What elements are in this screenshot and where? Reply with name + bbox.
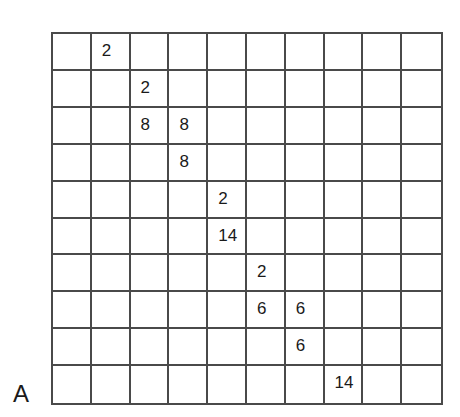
grid-cell xyxy=(325,108,364,145)
grid-cell xyxy=(92,182,131,219)
grid-cell: 8 xyxy=(169,145,208,182)
grid-cell xyxy=(53,292,92,329)
cell-value: 8 xyxy=(179,152,188,172)
grid-cell xyxy=(53,71,92,108)
grid-cell xyxy=(325,219,364,256)
grid-cell xyxy=(325,71,364,108)
grid-cell xyxy=(53,34,92,71)
grid-cell xyxy=(208,292,247,329)
grid-cell xyxy=(169,255,208,292)
grid-cell xyxy=(363,329,402,366)
cell-value: 2 xyxy=(218,189,227,209)
grid-cell xyxy=(402,182,441,219)
grid-cell xyxy=(208,255,247,292)
grid-cell xyxy=(363,34,402,71)
grid-cell xyxy=(208,34,247,71)
grid-cell: 14 xyxy=(325,366,364,403)
grid-cell xyxy=(286,145,325,182)
cell-value: 2 xyxy=(141,78,150,98)
grid-cell xyxy=(247,108,286,145)
grid-cell xyxy=(92,219,131,256)
grid-cell xyxy=(169,292,208,329)
grid-cell xyxy=(402,108,441,145)
grid-cell xyxy=(363,219,402,256)
grid-cell xyxy=(363,292,402,329)
grid-cell xyxy=(131,145,170,182)
grid-cell xyxy=(247,219,286,256)
cell-value: 6 xyxy=(257,299,266,319)
grid-cell: 6 xyxy=(286,329,325,366)
grid-cell xyxy=(363,108,402,145)
number-grid: 22888214266614 xyxy=(51,32,443,405)
grid-cell xyxy=(131,219,170,256)
grid-cell xyxy=(53,108,92,145)
grid-cell xyxy=(208,366,247,403)
grid-cell xyxy=(402,366,441,403)
grid-cell xyxy=(53,145,92,182)
grid-cell xyxy=(286,219,325,256)
grid-cell xyxy=(92,255,131,292)
grid-cell: 8 xyxy=(131,108,170,145)
grid-cell xyxy=(92,329,131,366)
grid-cell xyxy=(402,292,441,329)
grid-cell xyxy=(169,219,208,256)
grid-cell xyxy=(208,329,247,366)
grid-cell: 14 xyxy=(208,219,247,256)
grid-cell xyxy=(402,145,441,182)
grid-cell xyxy=(402,219,441,256)
grid-cell xyxy=(286,182,325,219)
grid-cell xyxy=(169,329,208,366)
grid-cell xyxy=(169,182,208,219)
grid-cell: 2 xyxy=(131,71,170,108)
grid-cell xyxy=(363,71,402,108)
grid-cell xyxy=(53,255,92,292)
grid-cell xyxy=(92,71,131,108)
grid-cell: 2 xyxy=(92,34,131,71)
grid-cell xyxy=(247,34,286,71)
grid-cell: 2 xyxy=(208,182,247,219)
grid-cell xyxy=(286,71,325,108)
grid-cell xyxy=(325,182,364,219)
grid-cell: 6 xyxy=(247,292,286,329)
grid-cell xyxy=(325,292,364,329)
grid-cell xyxy=(247,71,286,108)
grid-cell xyxy=(131,34,170,71)
grid-cell xyxy=(131,329,170,366)
grid-cell xyxy=(247,145,286,182)
grid-cell: 6 xyxy=(286,292,325,329)
grid-cell xyxy=(325,255,364,292)
grid-cell xyxy=(325,34,364,71)
cell-value: 8 xyxy=(141,115,150,135)
grid-cell xyxy=(247,182,286,219)
grid-cell xyxy=(169,71,208,108)
grid-cell xyxy=(286,108,325,145)
panel-label: A xyxy=(13,382,29,406)
cell-value: 2 xyxy=(102,41,111,61)
grid-cell xyxy=(169,366,208,403)
grid-cell xyxy=(286,255,325,292)
grid-cell xyxy=(286,34,325,71)
cell-value: 6 xyxy=(296,299,305,319)
grid-cell xyxy=(325,329,364,366)
grid-cell xyxy=(363,182,402,219)
grid-cell xyxy=(247,366,286,403)
grid-cell xyxy=(363,366,402,403)
grid-cell xyxy=(402,255,441,292)
grid-cell: 8 xyxy=(169,108,208,145)
cell-value: 6 xyxy=(296,336,305,356)
cell-value: 14 xyxy=(218,226,237,246)
grid-cell xyxy=(53,182,92,219)
grid-cell xyxy=(247,329,286,366)
grid-cell xyxy=(402,329,441,366)
cell-value: 8 xyxy=(179,115,188,135)
grid-cell xyxy=(131,292,170,329)
grid-cell xyxy=(402,34,441,71)
cell-value: 2 xyxy=(257,262,266,282)
grid-cell xyxy=(363,255,402,292)
grid-cell xyxy=(402,71,441,108)
grid-cell xyxy=(208,108,247,145)
grid-cell xyxy=(363,145,402,182)
cell-value: 14 xyxy=(335,373,354,393)
grid-cell xyxy=(53,366,92,403)
grid-cell xyxy=(131,255,170,292)
